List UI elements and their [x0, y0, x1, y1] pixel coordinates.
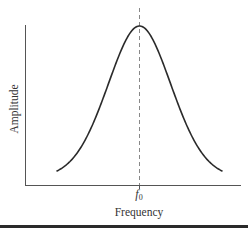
y-axis-label: Amplitude: [8, 84, 20, 133]
tick-subscript: 0: [139, 193, 143, 202]
resonance-figure: Amplitude f0 Frequency: [0, 0, 248, 228]
plot-canvas: [0, 0, 248, 228]
bottom-rule: [0, 225, 248, 228]
x-tick-label-f0: f0: [135, 187, 142, 202]
x-axis-label: Frequency: [115, 206, 164, 218]
